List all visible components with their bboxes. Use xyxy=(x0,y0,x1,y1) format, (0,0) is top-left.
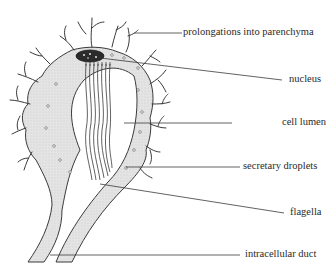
label-nucleus: nucleus xyxy=(289,74,321,85)
label-cell-lumen: cell lumen xyxy=(282,117,326,128)
label-secretary-droplets: secretary droplets xyxy=(243,161,317,172)
cell-body xyxy=(22,47,153,262)
flagella-bundle xyxy=(86,62,112,180)
label-flagella: flagella xyxy=(290,207,321,218)
leader-flagella xyxy=(100,184,284,213)
label-prolongations-into-parenchyma: prolongations into parenchyma xyxy=(183,27,314,38)
flame-cell-illustration xyxy=(0,0,330,270)
nucleus xyxy=(76,50,104,62)
flame-cell-diagram: prolongations into parenchyma nucleus ce… xyxy=(0,0,330,270)
label-intracellular-duct: intracellular duct xyxy=(245,249,316,260)
